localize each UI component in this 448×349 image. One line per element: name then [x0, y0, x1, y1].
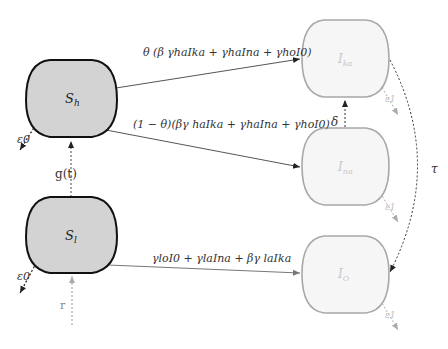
edge-label-io-out: ε1	[385, 310, 396, 320]
edge-label-ika-out: ε1	[385, 94, 396, 104]
diagram-canvas: Sh Sl Ika Ina IO θ (β γhaIka + γhaIna + …	[0, 0, 448, 349]
edge-label-sl-out: ε0	[17, 270, 30, 283]
edge-label-sh-to-ika: θ (β γhaIka + γhaIna + γhoI0)	[143, 46, 312, 59]
edge-label-sh-to-ina: (1 − θ)(βγ haIka + γhaIna + γhoI0)	[133, 118, 330, 131]
edge-ika-to-io	[390, 60, 418, 272]
edge-sh-to-ina	[106, 130, 300, 167]
edge-label-tau: τ	[431, 162, 438, 176]
edge-label-ina-out: ε1	[385, 202, 396, 212]
edge-label-gt: g(t)	[55, 167, 77, 181]
edge-sh-to-ika	[116, 59, 300, 88]
edge-label-r: r	[60, 299, 66, 312]
edge-label-delta: δ	[331, 115, 338, 129]
edge-label-sl-to-io: γloI0 + γlaIna + βγ laIka	[152, 252, 291, 265]
edge-sl-to-io	[108, 265, 300, 273]
edge-label-sh-out: ε0	[17, 133, 30, 146]
